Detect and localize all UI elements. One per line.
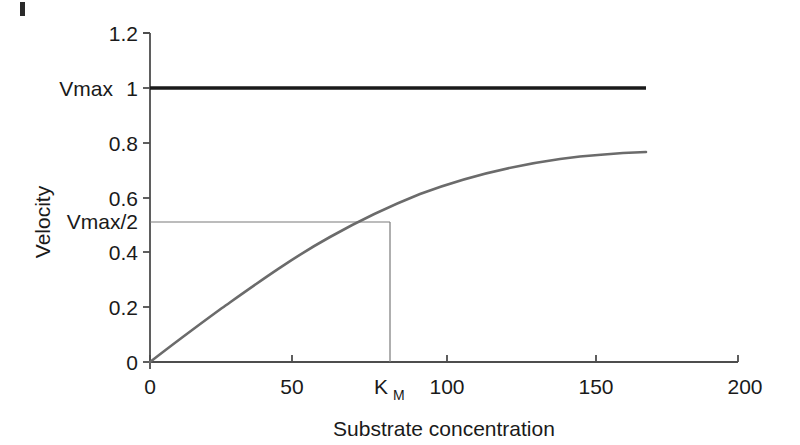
y-tick-label-0: 0 [126, 351, 138, 374]
scan-artifact-mark [20, 2, 25, 16]
y-axis-title: Velocity [31, 185, 54, 258]
axes-group [143, 33, 738, 362]
y-tick-label-1: 1 [126, 77, 138, 100]
y-tick-label-0-8: 0.8 [109, 132, 138, 155]
x-tick-label-200: 200 [727, 375, 762, 398]
y-tick-labels-group: 1.2 1 0.8 0.6 0.4 0.2 0 [109, 22, 139, 374]
km-label-base: K [374, 375, 388, 398]
x-tick-label-100: 100 [429, 375, 464, 398]
y-tick-label-0-2: 0.2 [109, 296, 138, 319]
y-tick-label-0-6: 0.6 [109, 187, 138, 210]
vmax-half-label: Vmax/2 [67, 210, 138, 233]
vmax-label: Vmax [59, 77, 113, 100]
velocity-curve [150, 152, 646, 362]
y-tick-label-1-2: 1.2 [109, 22, 138, 45]
km-axis-label: K M [374, 375, 405, 403]
x-tick-label-0: 0 [144, 375, 156, 398]
km-guide-lines-group [150, 222, 390, 362]
x-tick-label-150: 150 [578, 375, 613, 398]
x-tick-label-50: 50 [280, 375, 303, 398]
x-tick-labels-group: 0 50 100 150 200 [144, 375, 762, 398]
y-tick-label-0-4: 0.4 [109, 241, 139, 264]
michaelis-menten-figure: 1.2 1 0.8 0.6 0.4 0.2 0 Vmax Vmax/2 0 50… [0, 0, 800, 445]
x-axis-title: Substrate concentration [333, 417, 555, 440]
km-label-subscript: M [393, 387, 405, 403]
chart-canvas: 1.2 1 0.8 0.6 0.4 0.2 0 Vmax Vmax/2 0 50… [0, 0, 800, 445]
